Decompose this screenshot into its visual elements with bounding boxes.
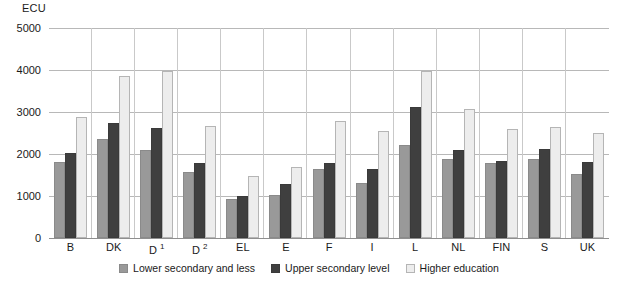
- bar-group: [221, 28, 264, 238]
- bar-group: [92, 28, 135, 238]
- legend-label: Higher education: [420, 262, 499, 274]
- category-name: DK: [106, 241, 121, 253]
- bar: [442, 159, 453, 238]
- bar: [485, 163, 496, 238]
- y-axis-tick-label: 4000: [17, 64, 41, 76]
- legend-item[interactable]: Upper secondary level: [271, 262, 389, 274]
- bar: [582, 162, 593, 238]
- bar: [324, 163, 335, 238]
- x-axis-category-label: B: [49, 240, 92, 260]
- y-axis-tick-label: 5000: [17, 22, 41, 34]
- bar: [205, 126, 216, 238]
- bar: [539, 149, 550, 238]
- x-axis-category-label: D2: [178, 240, 221, 260]
- bar: [237, 196, 248, 238]
- bar: [76, 117, 87, 238]
- category-name: S: [541, 241, 548, 253]
- bar: [453, 150, 464, 238]
- x-axis-category-label: EL: [221, 240, 264, 260]
- category-name: UK: [580, 241, 595, 253]
- bar-group: [480, 28, 523, 238]
- bar: [65, 153, 76, 238]
- bar: [97, 139, 108, 238]
- bar: [335, 121, 346, 238]
- x-axis-category-label: D1: [135, 240, 178, 260]
- bar-group: [394, 28, 437, 238]
- category-name: F: [326, 241, 333, 253]
- y-axis-tick-labels: 500040003000200010000: [0, 28, 49, 238]
- bar-group: [307, 28, 350, 238]
- legend-label: Upper secondary level: [285, 262, 389, 274]
- chart-legend: Lower secondary and lessUpper secondary …: [0, 262, 618, 274]
- category-name: B: [67, 241, 74, 253]
- bar: [367, 169, 378, 238]
- category-name: FIN: [492, 241, 510, 253]
- bar: [550, 127, 561, 238]
- y-axis-unit-label: ECU: [22, 2, 46, 14]
- bar: [313, 169, 324, 238]
- bar: [194, 163, 205, 238]
- y-axis-tick-label: 2000: [17, 148, 41, 160]
- bar: [378, 131, 389, 238]
- bar-group: [523, 28, 566, 238]
- legend-label: Lower secondary and less: [133, 262, 255, 274]
- bar-groups: [49, 28, 609, 238]
- legend-swatch-icon: [406, 264, 415, 273]
- x-axis-category-label: NL: [437, 240, 480, 260]
- bar: [119, 76, 130, 238]
- plot-area: [49, 28, 609, 238]
- bar: [140, 150, 151, 238]
- bar: [410, 107, 421, 238]
- bar: [162, 71, 173, 238]
- x-axis-category-label: FIN: [480, 240, 523, 260]
- legend-swatch-icon: [119, 264, 128, 273]
- bar: [593, 133, 604, 238]
- bar-group: [264, 28, 307, 238]
- bar-group: [351, 28, 394, 238]
- x-axis-category-label: S: [523, 240, 566, 260]
- category-name: EL: [236, 241, 249, 253]
- x-axis-category-label: F: [307, 240, 350, 260]
- bar: [269, 195, 280, 238]
- bar: [151, 128, 162, 238]
- bar-group: [178, 28, 221, 238]
- x-axis-category-label: UK: [566, 240, 609, 260]
- bar: [571, 174, 582, 238]
- category-name: NL: [451, 241, 465, 253]
- legend-item[interactable]: Higher education: [406, 262, 499, 274]
- bar: [108, 123, 119, 239]
- bar: [399, 145, 410, 238]
- y-axis-tick-label: 0: [35, 232, 41, 244]
- category-footnote-marker: 1: [160, 242, 164, 251]
- bar-chart: ECU 500040003000200010000 BDKD1D2ELEFILN…: [0, 0, 618, 284]
- category-name: I: [371, 241, 374, 253]
- x-axis-category-label: DK: [92, 240, 135, 260]
- bar: [507, 129, 518, 238]
- category-name: E: [282, 241, 289, 253]
- bar-group: [437, 28, 480, 238]
- bar: [421, 71, 432, 238]
- legend-swatch-icon: [271, 264, 280, 273]
- bar-group: [135, 28, 178, 238]
- category-footnote-marker: 2: [203, 242, 207, 251]
- bar: [291, 167, 302, 238]
- x-axis-category-label: L: [394, 240, 437, 260]
- legend-item[interactable]: Lower secondary and less: [119, 262, 255, 274]
- y-axis-tick-label: 1000: [17, 190, 41, 202]
- gridline: [49, 238, 609, 239]
- bar: [280, 184, 291, 238]
- x-axis-category-label: I: [351, 240, 394, 260]
- bar: [496, 161, 507, 238]
- x-axis-category-label: E: [264, 240, 307, 260]
- bar: [356, 183, 367, 238]
- bar: [54, 162, 65, 238]
- y-axis-tick-label: 3000: [17, 106, 41, 118]
- category-name: D: [192, 244, 200, 256]
- bar: [183, 172, 194, 238]
- bar: [528, 159, 539, 238]
- bar-group: [566, 28, 609, 238]
- bar: [226, 199, 237, 238]
- bar: [464, 109, 475, 238]
- bar-group: [49, 28, 92, 238]
- category-name: D: [149, 244, 157, 256]
